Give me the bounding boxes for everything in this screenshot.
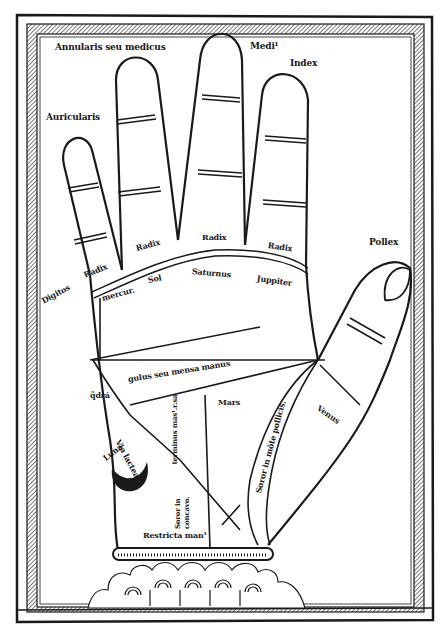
- label-restricta: Restricta man¹: [143, 530, 207, 540]
- label-qdra: q̃drá: [90, 390, 110, 400]
- label-index-finger: Index: [290, 58, 317, 68]
- palmistry-woodcut: Annularis seu medicus Medi¹ Index Auricu…: [0, 0, 447, 636]
- label-middle-finger: Medi¹: [250, 41, 278, 51]
- label-terminus: terminus mas¹.r.sa: [170, 385, 179, 465]
- label-mars: Mars: [218, 397, 240, 407]
- label-ring-finger: Annularis seu medicus: [55, 42, 166, 52]
- wrist-cuff: [113, 548, 273, 560]
- label-little-finger: Auricularis: [46, 112, 100, 122]
- label-soror-concavo: Soror in concavo.: [173, 469, 191, 529]
- label-radix-middle: Radix: [202, 232, 226, 242]
- label-thumb: Pollex: [369, 237, 398, 247]
- hand-diagram-artwork: [0, 0, 447, 636]
- outer-frame: [17, 15, 433, 622]
